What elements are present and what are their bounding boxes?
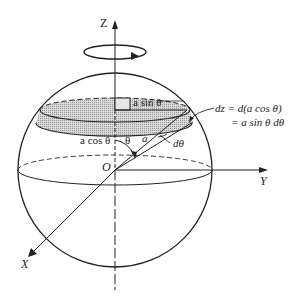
dtheta-label: dθ [173,138,184,149]
theta-label: θ [125,135,130,146]
dz-equation-line2: = a sin θ dθ [231,117,284,128]
x-axis-label: X [21,258,28,270]
origin-label: O [102,161,111,173]
sphere-diagram [0,0,306,300]
y-axis-label: Y [260,175,267,187]
ring-radius-label: a sin θ [133,97,162,108]
radius-label: a [142,133,148,144]
y-axis [115,167,268,173]
dz-equation-line1: dz = d(a cos θ) [215,103,282,114]
z-axis-label: Z [100,17,107,29]
shaded-ring [36,98,192,136]
height-label: a cos θ [80,135,110,146]
